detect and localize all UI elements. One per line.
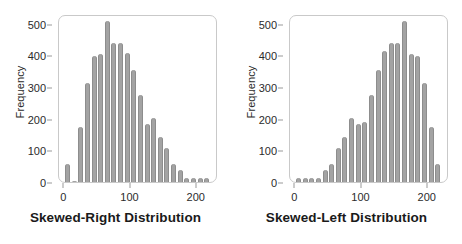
- x-axis-tick-label: 100: [351, 191, 369, 203]
- chart-panel-skewed-right: Frequency 0100200300400500 0100200 Skewe…: [0, 0, 231, 244]
- histogram-bar: [151, 118, 156, 183]
- y-axis-tick-label: 100: [28, 145, 46, 157]
- histogram-bar: [329, 164, 334, 183]
- histogram-bar: [389, 43, 394, 183]
- y-axis-tick-mark: [47, 56, 52, 57]
- y-axis-tick-mark: [278, 119, 283, 120]
- x-axis-ticks-left: 0100200: [58, 183, 217, 207]
- x-axis-tick-mark: [360, 183, 361, 188]
- histogram-bar: [349, 118, 354, 183]
- chart-caption-left: Skewed-Right Distribution: [0, 210, 231, 225]
- histogram-bar: [415, 56, 420, 183]
- histogram-bars-right: [290, 16, 447, 182]
- y-axis-tick-mark: [278, 56, 283, 57]
- x-axis-tick-label: 0: [291, 191, 297, 203]
- histogram-bar: [435, 164, 440, 183]
- histogram-bar: [118, 43, 123, 183]
- plot-area-left: [58, 15, 217, 183]
- histogram-bar: [105, 21, 110, 183]
- histogram-bar: [369, 95, 374, 183]
- histogram-bar: [85, 83, 90, 183]
- histogram-bar: [409, 54, 414, 183]
- y-axis-tick-mark: [278, 151, 283, 152]
- histogram-bar: [382, 51, 387, 183]
- histogram-bar: [131, 70, 136, 183]
- y-axis-tick-label: 400: [259, 50, 277, 62]
- y-axis-tick-mark: [47, 87, 52, 88]
- y-axis-tick-label: 500: [259, 19, 277, 31]
- histogram-bar: [111, 43, 116, 183]
- y-axis-tick-label: 200: [28, 114, 46, 126]
- x-axis-tick-label: 200: [187, 191, 205, 203]
- histogram-bar: [98, 54, 103, 183]
- y-axis-tick-mark: [278, 24, 283, 25]
- figure-container: Frequency 0100200300400500 0100200 Skewe…: [0, 0, 462, 244]
- x-axis-tick-mark: [294, 183, 295, 188]
- y-axis-tick-label: 0: [271, 177, 277, 189]
- y-axis-ticks-right: 0100200300400500: [253, 15, 283, 183]
- histogram-bars-left: [59, 16, 216, 182]
- y-axis-tick-mark: [47, 183, 52, 184]
- y-axis-tick-mark: [47, 151, 52, 152]
- histogram-bar: [145, 124, 150, 183]
- histogram-bar: [422, 83, 427, 183]
- chart-panel-skewed-left: Frequency 0100200300400500 0100200 Skewe…: [231, 0, 462, 244]
- histogram-bar: [336, 148, 341, 183]
- x-axis-tick-label: 100: [120, 191, 138, 203]
- y-axis-tick-mark: [47, 24, 52, 25]
- x-axis-tick-mark: [63, 183, 64, 188]
- histogram-bar: [178, 170, 183, 183]
- y-axis-tick-label: 0: [40, 177, 46, 189]
- histogram-bar: [356, 124, 361, 183]
- histogram-bar: [125, 53, 130, 183]
- y-axis-tick-mark: [278, 87, 283, 88]
- histogram-bar: [362, 122, 367, 183]
- histogram-bar: [78, 127, 83, 183]
- histogram-bar: [65, 164, 70, 183]
- plot-area-right: [289, 15, 448, 183]
- y-axis-tick-label: 500: [28, 19, 46, 31]
- y-axis-tick-label: 400: [28, 50, 46, 62]
- histogram-bar: [323, 170, 328, 183]
- x-axis-tick-label: 0: [60, 191, 66, 203]
- histogram-bar: [92, 56, 97, 183]
- y-axis-tick-label: 100: [259, 145, 277, 157]
- histogram-bar: [158, 137, 163, 183]
- y-axis-tick-mark: [278, 183, 283, 184]
- y-axis-tick-label: 300: [28, 82, 46, 94]
- y-axis-tick-label: 300: [259, 82, 277, 94]
- x-axis-tick-mark: [426, 183, 427, 188]
- histogram-bar: [429, 127, 434, 183]
- histogram-bar: [342, 137, 347, 183]
- histogram-bar: [138, 95, 143, 183]
- y-axis-tick-mark: [47, 119, 52, 120]
- y-axis-ticks-left: 0100200300400500: [22, 15, 52, 183]
- y-axis-tick-label: 200: [259, 114, 277, 126]
- chart-caption-right: Skewed-Left Distribution: [231, 210, 462, 225]
- histogram-bar: [402, 21, 407, 183]
- histogram-bar: [171, 164, 176, 183]
- x-axis-tick-mark: [129, 183, 130, 188]
- x-axis-tick-label: 200: [418, 191, 436, 203]
- x-axis-tick-mark: [195, 183, 196, 188]
- histogram-bar: [376, 70, 381, 183]
- histogram-bar: [164, 148, 169, 183]
- x-axis-ticks-right: 0100200: [289, 183, 448, 207]
- histogram-bar: [395, 43, 400, 183]
